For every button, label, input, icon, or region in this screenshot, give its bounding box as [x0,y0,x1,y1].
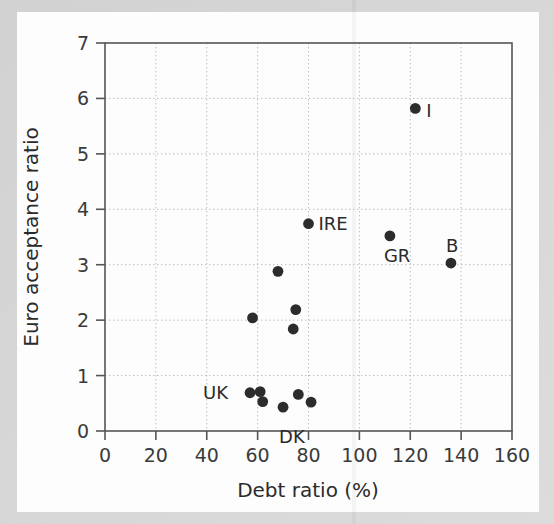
x-tick-label: 40 [195,444,219,466]
data-point-label: IRE [319,213,348,234]
y-tick-label: 7 [77,32,89,54]
y-tick-label: 0 [77,420,89,442]
scatter-plot-figure: 020406080100120140160 01234567 IIREGRBUK… [0,0,554,524]
y-tick-label: 5 [77,143,89,165]
y-tick-labels-group: 01234567 [77,32,89,442]
data-point-label: DK [279,426,306,447]
data-point-label: UK [203,382,229,403]
data-point [245,387,256,398]
y-tick-label: 4 [77,198,89,220]
data-point-label: I [426,100,431,121]
data-point [446,258,457,269]
x-tick-labels-group: 020406080100120140160 [99,444,530,466]
data-point [290,304,301,315]
x-tick-label: 160 [494,444,530,466]
data-point [257,396,268,407]
data-point [273,266,284,277]
x-tick-label: 60 [246,444,270,466]
x-tick-label: 120 [392,444,428,466]
data-point [255,386,266,397]
x-tick-label: 80 [296,444,320,466]
data-point-label: B [446,235,458,256]
y-axis-title: Euro acceptance ratio [19,127,43,346]
y-tick-label: 1 [77,365,89,387]
data-point [303,218,314,229]
data-point-label: GR [384,245,410,266]
y-tick-label: 2 [77,309,89,331]
data-point [385,230,396,241]
x-tick-label: 20 [144,444,168,466]
y-tick-label: 6 [77,87,89,109]
data-point [293,389,304,400]
data-point [306,397,317,408]
scatter-plot-svg: 020406080100120140160 01234567 IIREGRBUK… [0,0,554,524]
x-axis-title: Debt ratio (%) [237,478,379,502]
data-points-group [245,103,457,413]
point-labels-group: IIREGRBUKDK [203,100,458,447]
x-tick-label: 140 [443,444,479,466]
x-tick-label: 100 [341,444,377,466]
data-point [278,402,289,413]
data-point [247,313,258,324]
y-tick-label: 3 [77,254,89,276]
data-point [288,324,299,335]
data-point [410,103,421,114]
x-tick-label: 0 [99,444,111,466]
